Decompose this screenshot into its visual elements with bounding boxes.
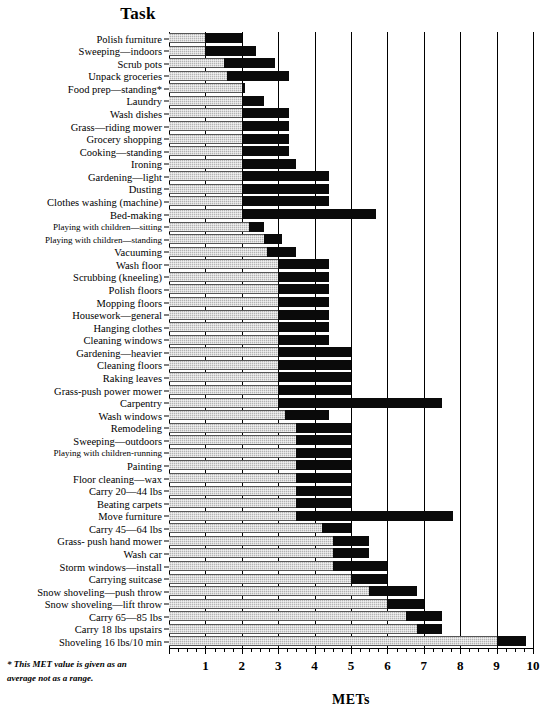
bar-segment-high bbox=[224, 58, 275, 68]
x-tick-minor bbox=[224, 648, 225, 652]
row-label: Hanging clothes bbox=[93, 322, 162, 333]
row-label: Move furniture bbox=[98, 511, 162, 522]
chart-row: Scrub pots bbox=[169, 57, 533, 70]
row-label: Laundry bbox=[126, 96, 162, 107]
bar-segment-high bbox=[296, 435, 351, 445]
bar-segment-high bbox=[205, 46, 256, 56]
row-label: Carpentry bbox=[120, 398, 162, 409]
row-label: Carry 20—44 lbs bbox=[89, 486, 162, 497]
x-tick-minor bbox=[469, 648, 470, 652]
met-task-chart: Task Polish furnitureSweeping—indoorsScr… bbox=[0, 0, 552, 720]
bar-segment-high bbox=[278, 310, 329, 320]
x-tick-minor bbox=[187, 648, 188, 652]
x-tick-minor bbox=[488, 648, 489, 652]
x-tick-minor bbox=[369, 648, 370, 652]
chart-row: Wash car bbox=[169, 547, 533, 560]
chart-row: Food prep—standing* bbox=[169, 82, 533, 95]
bar-segment-high bbox=[296, 473, 351, 483]
bar-segment-high bbox=[242, 134, 289, 144]
x-tick-minor bbox=[342, 648, 343, 652]
row-label: Carrying suitcase bbox=[89, 574, 162, 585]
x-tick-label: 10 bbox=[527, 658, 540, 674]
x-tick-minor bbox=[260, 648, 261, 652]
row-label: Wash car bbox=[123, 549, 162, 560]
chart-row: Mopping floors bbox=[169, 296, 533, 309]
row-label: Grocery shopping bbox=[86, 134, 162, 145]
chart-row: Laundry bbox=[169, 95, 533, 108]
chart-row: Dusting bbox=[169, 183, 533, 196]
row-label: Sweeping—outdoors bbox=[73, 435, 162, 446]
x-tick-label: 9 bbox=[493, 658, 500, 674]
bar-segment-low bbox=[169, 586, 369, 596]
bar-segment-high bbox=[278, 360, 351, 370]
bar-segment-low bbox=[169, 372, 278, 382]
bar-segment-low bbox=[169, 511, 296, 521]
bar-segment-high bbox=[322, 523, 351, 533]
row-label: Cooking—standing bbox=[80, 146, 162, 157]
bar-segment-high bbox=[249, 222, 264, 232]
bar-segment-low bbox=[169, 33, 205, 43]
row-label: Carry 18 lbs upstairs bbox=[75, 624, 162, 635]
row-label: Wash floor bbox=[116, 259, 162, 270]
chart-row: Sweeping—indoors bbox=[169, 45, 533, 58]
bar-segment-low bbox=[169, 385, 278, 395]
x-tick-label: 6 bbox=[384, 658, 391, 674]
chart-row: Unpack groceries bbox=[169, 70, 533, 83]
chart-row: Carpentry bbox=[169, 397, 533, 410]
footnote-line-2: average not as a range. bbox=[7, 671, 162, 685]
bar-segment-low bbox=[169, 473, 296, 483]
chart-row: Move furniture bbox=[169, 510, 533, 523]
x-tick-minor bbox=[406, 648, 407, 652]
x-tick-minor bbox=[415, 648, 416, 652]
row-label: Grass-push power mower bbox=[54, 385, 162, 396]
bar-segment-high bbox=[242, 184, 329, 194]
x-tick-minor bbox=[178, 648, 179, 652]
x-tick-minor bbox=[524, 648, 525, 652]
row-label: Shoveling 16 lbs/10 min bbox=[59, 637, 162, 648]
x-tick-minor bbox=[360, 648, 361, 652]
x-tick-minor bbox=[296, 648, 297, 652]
x-axis-title: METs bbox=[169, 692, 533, 708]
row-label: Mopping floors bbox=[96, 297, 162, 308]
bar-segment-high bbox=[278, 398, 442, 408]
chart-row: Shoveling 16 lbs/10 min bbox=[169, 635, 533, 648]
chart-row: Playing with children—sitting bbox=[169, 221, 533, 234]
row-label: Unpack groceries bbox=[88, 71, 162, 82]
bar-rows: Polish furnitureSweeping—indoorsScrub po… bbox=[169, 32, 533, 648]
bar-segment-low bbox=[169, 121, 242, 131]
bar-segment-low bbox=[169, 134, 242, 144]
chart-row: Painting bbox=[169, 459, 533, 472]
x-tick-major bbox=[351, 648, 352, 654]
bar-segment-high bbox=[278, 297, 329, 307]
chart-row: Hanging clothes bbox=[169, 321, 533, 334]
chart-row: Remodeling bbox=[169, 422, 533, 435]
chart-title: Task bbox=[0, 4, 276, 24]
bar-segment-low bbox=[169, 71, 227, 81]
bar-segment-high bbox=[296, 460, 351, 470]
chart-row: Beating carpets bbox=[169, 497, 533, 510]
bar-segment-low bbox=[169, 146, 242, 156]
chart-row: Cooking—standing bbox=[169, 145, 533, 158]
bar-segment-low bbox=[169, 171, 242, 181]
bar-segment-low bbox=[169, 335, 278, 345]
bar-segment-high bbox=[278, 335, 329, 345]
x-tick-label: 4 bbox=[311, 658, 318, 674]
chart-row: Raking leaves bbox=[169, 371, 533, 384]
x-tick-minor bbox=[233, 648, 234, 652]
row-label: Dusting bbox=[129, 184, 162, 195]
bar-segment-high bbox=[278, 385, 351, 395]
row-label: Sweeping—indoors bbox=[79, 46, 162, 57]
row-label: Food prep—standing* bbox=[68, 83, 162, 94]
chart-row: Playing with children—standing bbox=[169, 233, 533, 246]
chart-row: Wash windows bbox=[169, 409, 533, 422]
bar-segment-high bbox=[242, 83, 246, 93]
chart-row: Gardening—light bbox=[169, 170, 533, 183]
bar-segment-low bbox=[169, 58, 224, 68]
bar-segment-low bbox=[169, 284, 278, 294]
chart-row: Clothes washing (machine) bbox=[169, 195, 533, 208]
chart-row: Grass—riding mower bbox=[169, 120, 533, 133]
chart-row: Cleaning floors bbox=[169, 359, 533, 372]
bar-segment-low bbox=[169, 636, 497, 646]
bar-segment-low bbox=[169, 196, 242, 206]
row-label: Wash dishes bbox=[110, 109, 162, 120]
